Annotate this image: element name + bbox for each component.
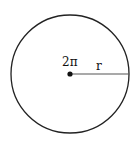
center-label: 2π <box>62 55 78 69</box>
radius-label: r <box>96 59 102 73</box>
circle-diagram: 2π r <box>0 0 140 147</box>
center-point <box>67 71 72 76</box>
